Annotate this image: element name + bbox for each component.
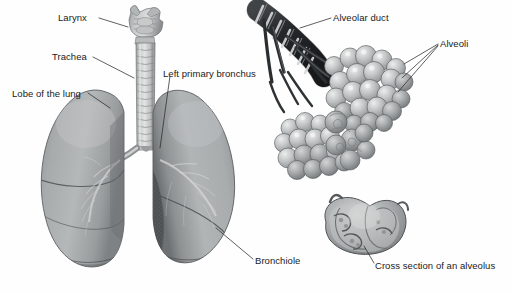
trachea-illustration [136,43,155,150]
label-lobe-of-the-lung: Lobe of the lung [12,88,81,99]
label-alveolar-duct: Alveolar duct [333,12,389,23]
label-cross-section-of-an-alveolus: Cross section of an alveolus [375,260,495,271]
label-alveoli: Alveoli [440,38,468,49]
label-bronchiole: Bronchiole [255,255,300,266]
label-trachea: Trachea [52,51,87,62]
anatomy-illustration [0,0,512,293]
label-left-primary-bronchus: Left primary bronchus [163,68,256,79]
label-larynx: Larynx [58,12,87,23]
respiratory-system-figure: Larynx Trachea Lobe of the lung Left pri… [0,0,512,293]
